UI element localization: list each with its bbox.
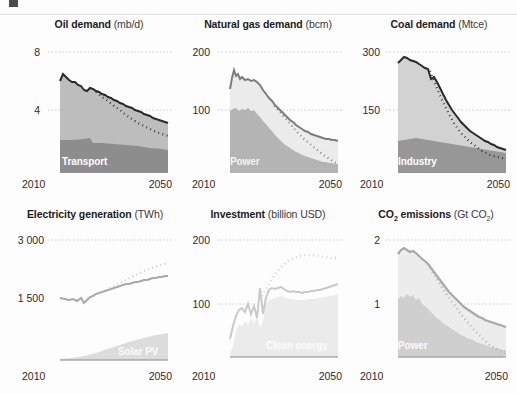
x-tick-coal-2050: 2050 [470, 178, 510, 190]
panel-title-main: Natural gas demand [204, 18, 303, 30]
y-tick-oil-8: 8 [18, 46, 40, 58]
y-tick-co2-1: 1 [358, 298, 380, 310]
y-tick-inv-200: 200 [180, 234, 210, 246]
x-tick-coal-2010: 2010 [360, 178, 400, 190]
plot-area-oil-demand [48, 38, 173, 173]
panel-electricity-generation: Electricity generation (TWh) 3 000 1 500… [6, 208, 178, 388]
x-tick-gas-2010: 2010 [192, 178, 232, 190]
panel-title-oil-demand: Oil demand (mb/d) [24, 18, 174, 30]
area-label-power-gas: Power [230, 156, 260, 167]
line-total-electricity [60, 276, 168, 303]
panel-oil-demand: Oil demand (mb/d) 8 4 Transport [6, 18, 178, 194]
y-tick-elec-3000: 3 000 [6, 234, 44, 246]
x-tick-inv-2050: 2050 [302, 370, 342, 382]
y-tick-coal-150: 150 [350, 104, 380, 116]
panel-title-co2: CO2 emissions (Gt CO2) [358, 208, 514, 222]
area-label-solar-pv: Solar PV [118, 346, 158, 357]
y-tick-gas-200: 200 [180, 46, 210, 58]
plot-area-electricity [48, 226, 173, 366]
plot-area-coal [386, 38, 511, 173]
electricity-svg [48, 226, 173, 366]
panel-title-unit: (billion USD) [268, 208, 326, 220]
area-label-clean-energy: Clean energy [266, 340, 328, 351]
panel-co2-emissions: CO2 emissions (Gt CO2) 2 1 Power 2010 20… [350, 208, 517, 388]
y-tick-coal-300: 300 [350, 46, 380, 58]
panel-title-main: Oil demand [55, 18, 111, 30]
panel-natural-gas-demand: Natural gas demand (bcm) 200 100 Power 2… [178, 18, 350, 194]
line-projection-investment [258, 255, 336, 304]
panel-title-main: CO2 emissions [378, 208, 451, 220]
plot-area-natural-gas [218, 38, 343, 173]
area-label-transport: Transport [62, 156, 107, 167]
x-tick-elec-2010: 2010 [22, 370, 62, 382]
cropped-text-fragment [9, 0, 18, 7]
panel-title-main: Electricity generation [27, 208, 132, 220]
y-tick-inv-100: 100 [180, 298, 210, 310]
x-tick-oil-2010: 2010 [22, 178, 62, 190]
panel-investment: Investment (billion USD) 200 100 Clean e… [178, 208, 350, 388]
coal-demand-svg [386, 38, 511, 173]
panel-title-investment: Investment (billion USD) [188, 208, 348, 220]
panel-title-coal: Coal demand (Mtce) [364, 18, 514, 30]
y-tick-gas-100: 100 [180, 104, 210, 116]
panel-title-main: Investment [211, 208, 265, 220]
x-tick-oil-2050: 2050 [132, 178, 172, 190]
panel-title-main: Coal demand [391, 18, 456, 30]
x-tick-co2-2010: 2010 [360, 370, 400, 382]
area-label-industry: Industry [398, 156, 437, 167]
x-tick-gas-2050: 2050 [302, 178, 342, 190]
area-label-power-co2: Power [398, 340, 428, 351]
panel-title-unit: (mb/d) [114, 18, 144, 30]
y-tick-oil-4: 4 [18, 104, 40, 116]
y-tick-co2-2: 2 [358, 234, 380, 246]
header-divider [0, 14, 517, 15]
panel-title-unit: (bcm) [306, 18, 332, 30]
y-tick-elec-1500: 1 500 [6, 292, 44, 304]
oil-demand-svg [48, 38, 173, 173]
panel-title-unit: (Mtce) [458, 18, 487, 30]
x-tick-inv-2010: 2010 [192, 370, 232, 382]
natural-gas-svg [218, 38, 343, 173]
panel-coal-demand: Coal demand (Mtce) 300 150 Industry 2010… [350, 18, 517, 194]
x-tick-elec-2050: 2050 [132, 370, 172, 382]
panel-title-electricity: Electricity generation (TWh) [12, 208, 178, 220]
x-tick-co2-2050: 2050 [468, 370, 508, 382]
figure-canvas: Oil demand (mb/d) 8 4 Transport [0, 0, 517, 394]
panel-title-unit: (Gt CO2) [454, 208, 494, 220]
panel-title-unit: (TWh) [134, 208, 163, 220]
panel-title-natural-gas: Natural gas demand (bcm) [186, 18, 350, 30]
